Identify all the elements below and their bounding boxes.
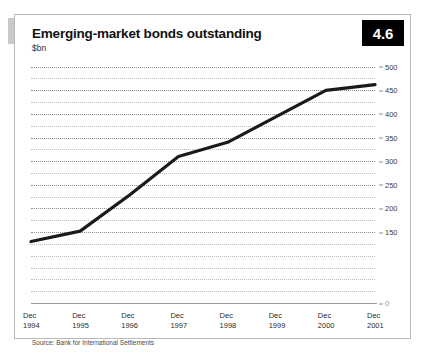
y-tick-text: 500	[385, 62, 398, 71]
y-axis-tick-label: 300	[379, 157, 398, 166]
x-tick-text: Dec	[23, 311, 40, 321]
y-axis-tick-label: 250	[379, 180, 398, 189]
x-tick-text: 1996	[121, 321, 138, 331]
y-axis-tick-label: 150	[379, 228, 398, 237]
y-tick-text: 350	[385, 133, 398, 142]
figure-number-badge: 4.6	[362, 20, 404, 46]
y-tick-mark	[379, 161, 383, 162]
y-axis-tick-label: 0	[379, 299, 389, 308]
x-axis-tick-label: Dec2001	[367, 311, 384, 330]
x-tick-text: 1999	[269, 321, 286, 331]
y-tick-text: 400	[385, 109, 398, 118]
y-tick-mark	[379, 90, 383, 91]
y-tick-text: 0	[385, 299, 389, 308]
source-note: Source: Bank for International Settlemen…	[32, 339, 154, 346]
x-tick-text: 2001	[367, 321, 384, 331]
series-line	[31, 61, 375, 303]
y-axis-tick-label: 500	[379, 62, 398, 71]
x-tick-text: Dec	[367, 311, 384, 321]
x-tick-text: Dec	[170, 311, 187, 321]
chart-title: Emerging-market bonds outstanding	[32, 26, 262, 41]
x-axis-tick-label: Dec1994	[23, 311, 40, 330]
x-tick-text: Dec	[269, 311, 286, 321]
y-tick-text: 150	[385, 228, 398, 237]
x-tick-text: 1998	[220, 321, 237, 331]
chart-unit-label: $bn	[32, 43, 46, 53]
x-axis-tick-label: Dec2000	[318, 311, 335, 330]
y-axis-tick-label: 400	[379, 109, 398, 118]
chart-figure: Emerging-market bonds outstanding $bn 4.…	[14, 14, 411, 339]
y-axis-tick-label: 350	[379, 133, 398, 142]
y-axis-tick-label: 200	[379, 204, 398, 213]
y-tick-text: 300	[385, 157, 398, 166]
x-axis-tick-label: Dec1995	[72, 311, 89, 330]
x-tick-text: 2000	[318, 321, 335, 331]
x-tick-text: Dec	[121, 311, 138, 321]
x-tick-text: Dec	[318, 311, 335, 321]
y-tick-mark	[379, 185, 383, 186]
y-tick-mark	[379, 232, 383, 233]
x-axis-tick-label: Dec1997	[170, 311, 187, 330]
x-axis-tick-label: Dec1998	[220, 311, 237, 330]
x-axis-tick-label: Dec1996	[121, 311, 138, 330]
y-tick-mark	[379, 138, 383, 139]
y-tick-mark	[379, 114, 383, 115]
x-tick-text: Dec	[220, 311, 237, 321]
x-tick-text: 1997	[170, 321, 187, 331]
plot-area	[31, 61, 375, 303]
x-tick-text: Dec	[72, 311, 89, 321]
x-axis-tick-label: Dec1999	[269, 311, 286, 330]
y-tick-mark	[379, 67, 383, 68]
y-axis-tick-label: 450	[379, 86, 398, 95]
y-tick-text: 250	[385, 180, 398, 189]
y-tick-text: 450	[385, 86, 398, 95]
y-tick-mark	[379, 303, 383, 304]
x-tick-text: 1995	[72, 321, 89, 331]
x-axis-baseline	[31, 303, 377, 304]
y-tick-text: 200	[385, 204, 398, 213]
x-tick-text: 1994	[23, 321, 40, 331]
y-tick-mark	[379, 208, 383, 209]
